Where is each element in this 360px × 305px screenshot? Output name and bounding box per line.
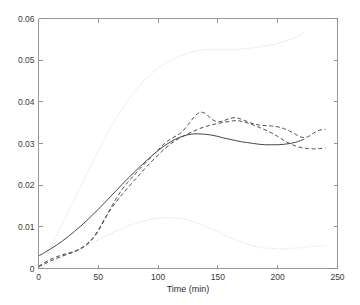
- figure-container: 05010015020025000.010.020.030.040.050.06…: [0, 0, 360, 305]
- x-tick-label: 250: [330, 272, 344, 282]
- x-tick-label: 200: [271, 272, 285, 282]
- y-tick-label: 0.04: [18, 97, 35, 107]
- x-tick-label: 150: [211, 272, 225, 282]
- line-chart: 05010015020025000.010.020.030.040.050.06…: [0, 0, 360, 305]
- x-tick-label: 0: [36, 272, 41, 282]
- y-tick-label: 0.05: [18, 55, 35, 65]
- x-tick-label: 50: [94, 272, 104, 282]
- x-tick-label: 100: [151, 272, 165, 282]
- y-tick-label: 0.03: [18, 139, 35, 149]
- x-axis-title: Time (min): [167, 284, 210, 294]
- y-tick-label: 0: [30, 264, 35, 274]
- chart-background: [0, 0, 360, 305]
- y-tick-label: 0.02: [18, 180, 35, 190]
- y-tick-label: 0.01: [18, 222, 35, 232]
- y-tick-label: 0.06: [18, 14, 35, 24]
